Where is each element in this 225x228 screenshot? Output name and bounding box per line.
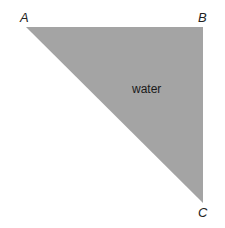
triangle-diagram: A B C water <box>0 0 225 228</box>
water-region-triangle <box>26 27 203 203</box>
vertex-label-b: B <box>198 10 207 25</box>
region-label-water: water <box>131 82 161 96</box>
vertex-label-a: A <box>19 10 29 25</box>
vertex-label-c: C <box>198 205 208 220</box>
